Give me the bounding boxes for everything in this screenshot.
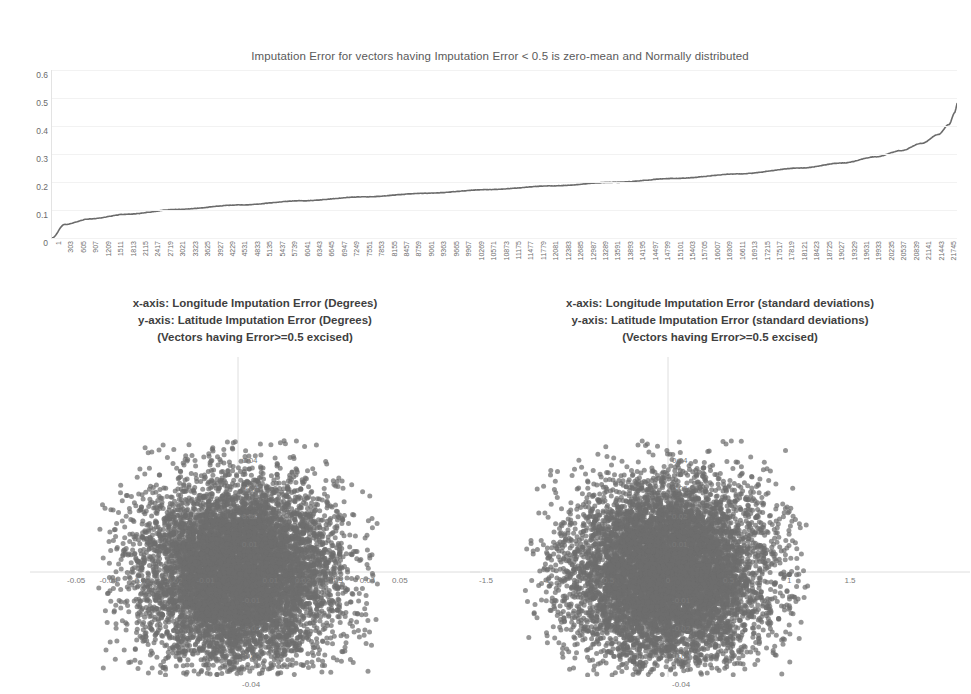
scatter-x-tick: 0.03	[327, 576, 343, 585]
top-chart-x-tick: 4833	[254, 241, 261, 257]
scatter-plot-standard-deviations: x-axis: Longitude Imputation Error (stan…	[470, 295, 970, 685]
top-chart-y-tick: 0	[43, 238, 48, 248]
top-chart-x-tick: 8155	[391, 241, 398, 257]
scatter-y-tick: 0.04	[672, 456, 688, 465]
top-chart-x-tick: 13591	[614, 241, 621, 260]
top-chart-x-tick: 12081	[552, 241, 559, 260]
scatter-stddev-plot-area: -1.5-1-0.500.511.50.040.030.020.01-0.01-…	[470, 357, 970, 677]
scatter-x-tick: 0.01	[263, 576, 279, 585]
scatter-x-tick: -0.5	[600, 576, 614, 585]
scatter-stddev-points	[470, 357, 970, 677]
top-chart-x-tick: 4531	[241, 241, 248, 257]
scatter-y-tick: -0.02	[242, 624, 260, 633]
top-chart-x-tick: 16611	[739, 241, 746, 260]
top-chart-x-tick: 7249	[353, 241, 360, 257]
top-chart-x-tick: 18121	[801, 241, 808, 260]
top-chart-x-tick: 14799	[664, 241, 671, 260]
scatter-x-tick: -0.02	[164, 576, 182, 585]
top-chart-x-tick: 19631	[863, 241, 870, 260]
scatter-x-tick: -0.04	[99, 576, 117, 585]
scatter-y-tick: -0.04	[672, 680, 690, 689]
scatter-y-tick: -0.03	[242, 652, 260, 661]
scatter-y-tick: -0.01	[242, 596, 260, 605]
scatter-x-tick: 1.5	[844, 576, 855, 585]
top-chart-x-tick: 11175	[515, 241, 522, 259]
top-chart-gridline	[52, 210, 957, 211]
top-chart-y-tick: 0.1	[36, 210, 48, 220]
scatter-x-tick: -0.03	[132, 576, 150, 585]
top-chart-gridline	[52, 154, 957, 155]
top-chart-y-tick: 0.4	[36, 126, 48, 136]
scatter-stddev-title-line-1: x-axis: Longitude Imputation Error (stan…	[470, 295, 970, 312]
top-chart-x-tick: 605	[80, 241, 87, 253]
top-chart-x-tick: 4229	[229, 241, 236, 257]
scatter-stddev-title-line-2: y-axis: Latitude Imputation Error (stand…	[470, 312, 970, 329]
top-chart-y-tick: 0.5	[36, 98, 48, 108]
scatter-x-tick: 1	[787, 576, 791, 585]
scatter-y-tick: -0.03	[672, 652, 690, 661]
scatter-x-tick: 0.5	[723, 576, 734, 585]
scatter-stddev-title-line-3: (Vectors having Error>=0.5 excised)	[470, 329, 970, 346]
top-chart-x-tick: 9665	[453, 241, 460, 257]
top-chart-x-tick: 11477	[527, 241, 534, 260]
top-chart-x-tick: 9967	[465, 241, 472, 257]
top-chart-x-tick: 9061	[428, 241, 435, 257]
top-chart-x-tick: 1	[55, 241, 62, 245]
top-chart-x-tick: 2719	[167, 241, 174, 257]
top-chart-x-tick: 1209	[105, 241, 112, 257]
top-chart-x-tick: 2115	[142, 241, 149, 256]
top-chart-x-tick: 21443	[938, 241, 945, 260]
top-chart-gridline	[52, 98, 957, 99]
scatter-degrees-title-line-2: y-axis: Latitude Imputation Error (Degre…	[30, 312, 480, 329]
top-chart-x-tick: 14497	[652, 241, 659, 260]
top-chart-x-tick: 16913	[751, 241, 758, 260]
top-chart-gridline	[52, 70, 957, 71]
scatter-y-tick: 0.01	[672, 540, 688, 549]
top-chart-x-tick: 12383	[565, 241, 572, 260]
scatter-x-tick: 0.04	[360, 576, 376, 585]
top-chart-x-tick: 11779	[540, 241, 547, 260]
top-chart-x-tick: 15101	[677, 241, 684, 260]
scatter-y-tick: 0.04	[242, 456, 258, 465]
top-chart-x-tick: 8759	[415, 241, 422, 257]
top-chart-y-axis: 0.60.50.40.30.20.10	[18, 62, 48, 247]
scatter-x-tick: -0.05	[67, 576, 85, 585]
sorted-imputation-error-chart: Imputation Error for vectors having Impu…	[0, 38, 971, 288]
scatter-plot-degrees: x-axis: Longitude Imputation Error (Degr…	[30, 295, 480, 685]
top-chart-x-tick: 10873	[503, 241, 510, 260]
top-chart-x-tick: 7551	[366, 241, 373, 257]
top-chart-x-tick: 19027	[838, 241, 845, 260]
top-chart-x-tick: 10269	[478, 241, 485, 260]
top-chart-x-tick: 17215	[764, 241, 771, 260]
top-chart-gridline	[52, 238, 957, 239]
top-chart-x-tick: 16309	[726, 241, 733, 260]
top-chart-x-tick: 9363	[440, 241, 447, 257]
top-chart-x-tick: 15705	[701, 241, 708, 260]
scatter-x-tick: -0.01	[197, 576, 215, 585]
scatter-y-tick: 0.02	[672, 512, 688, 521]
top-chart-x-tick: 3323	[192, 241, 199, 257]
top-chart-x-tick: 17517	[776, 241, 783, 260]
top-chart-x-tick: 5437	[279, 241, 286, 257]
top-chart-x-tick: 1813	[130, 241, 137, 257]
scatter-x-tick: -1	[543, 576, 550, 585]
top-chart-x-tick: 3021	[179, 241, 186, 257]
top-chart-x-tick: 16007	[714, 241, 721, 260]
scatter-x-tick: 0	[666, 576, 670, 585]
top-chart-title: Imputation Error for vectors having Impu…	[150, 50, 850, 62]
top-chart-x-tick: 6947	[341, 241, 348, 257]
top-chart-x-tick: 5135	[266, 241, 273, 257]
top-chart-x-tick: 12685	[577, 241, 584, 260]
scatter-degrees-plot-area: -0.05-0.04-0.03-0.02-0.010.010.020.030.0…	[30, 357, 480, 677]
top-chart-x-tick: 10571	[490, 241, 497, 260]
scatter-y-tick: 0.03	[242, 484, 258, 493]
scatter-degrees-title-line-3: (Vectors having Error>=0.5 excised)	[30, 329, 480, 346]
top-chart-x-tick: 20235	[888, 241, 895, 260]
top-chart-x-tick: 3625	[204, 241, 211, 257]
top-chart-x-tick: 17819	[788, 241, 795, 260]
top-chart-x-tick: 18423	[813, 241, 820, 260]
top-chart-x-tick: 20839	[913, 241, 920, 260]
top-chart-x-tick: 13289	[602, 241, 609, 260]
scatter-x-tick: -1.5	[479, 576, 493, 585]
scatter-y-tick: -0.01	[672, 596, 690, 605]
